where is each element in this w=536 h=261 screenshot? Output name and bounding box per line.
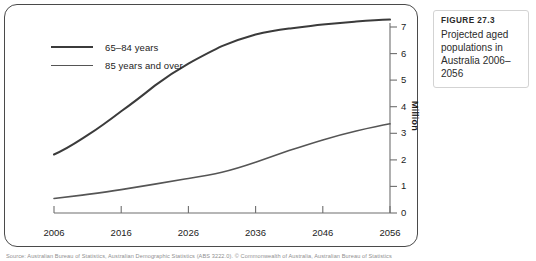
legend-swatch-85-over bbox=[51, 65, 93, 66]
figure-caption-box: FIGURE 27.3 Projected aged populations i… bbox=[433, 10, 529, 88]
y-tick-label-5: 5 bbox=[401, 74, 415, 85]
y-tick-label-0: 0 bbox=[401, 207, 415, 218]
series-line-85-over bbox=[54, 124, 390, 199]
figure-number: FIGURE 27.3 bbox=[441, 16, 522, 25]
x-tick-label-2046: 2046 bbox=[303, 227, 343, 238]
y-tick-label-1: 1 bbox=[401, 180, 415, 191]
legend-swatch-65-84 bbox=[51, 46, 93, 48]
legend-item-65-84: 65–84 years bbox=[51, 38, 261, 56]
y-tick-label-2: 2 bbox=[401, 154, 415, 165]
y-axis-ticks bbox=[390, 27, 397, 213]
legend-label-65-84: 65–84 years bbox=[105, 42, 158, 53]
y-tick-label-7: 7 bbox=[401, 21, 415, 32]
x-tick-label-2026: 2026 bbox=[168, 227, 208, 238]
x-tick-label-2006: 2006 bbox=[34, 227, 74, 238]
chart-legend: 65–84 years 85 years and over bbox=[51, 38, 261, 74]
source-note: Source: Australian Bureau of Statistics,… bbox=[6, 253, 534, 259]
legend-label-85-over: 85 years and over bbox=[105, 60, 183, 71]
y-axis-title: Million bbox=[410, 101, 420, 131]
x-tick-label-2016: 2016 bbox=[101, 227, 141, 238]
x-tick-label-2056: 2056 bbox=[370, 227, 410, 238]
x-axis-ticks bbox=[54, 206, 390, 213]
figure-caption-text: Projected aged populations in Australia … bbox=[441, 28, 522, 80]
chart-panel: 65–84 years 85 years and over 7 6 5 4 3 … bbox=[4, 4, 418, 247]
y-tick-label-6: 6 bbox=[401, 48, 415, 59]
x-tick-label-2036: 2036 bbox=[236, 227, 276, 238]
legend-item-85-over: 85 years and over bbox=[51, 56, 261, 74]
